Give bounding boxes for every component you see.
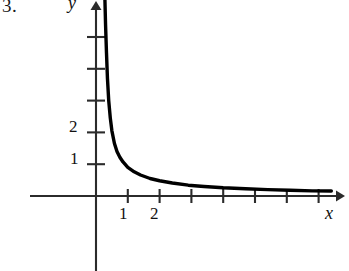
- figure-container: 3. y x 2 1 1 2: [0, 0, 349, 271]
- y-tick-label-2: 2: [69, 117, 78, 137]
- plot-svg: [0, 0, 349, 271]
- x-axis-arrow-icon: [336, 191, 345, 202]
- y-axis-label: y: [68, 0, 76, 14]
- problem-number: 3.: [2, 0, 17, 17]
- y-axis-group: [91, 1, 102, 271]
- hyperbola-curve: [105, 0, 331, 191]
- x-tick-label-1: 1: [119, 204, 128, 224]
- y-tick-label-1: 1: [70, 149, 79, 169]
- y-axis-arrow-icon: [91, 1, 102, 10]
- x-tick-label-2: 2: [150, 204, 159, 224]
- x-axis-label: x: [325, 203, 333, 224]
